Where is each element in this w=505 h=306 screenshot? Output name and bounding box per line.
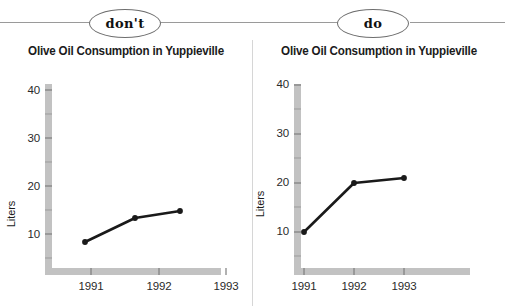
do-data-point-1993: [401, 175, 407, 181]
do-x-axis: [294, 268, 470, 275]
do-data-markers: [301, 175, 407, 235]
do-badge: do: [337, 9, 409, 38]
rule-line-left-b: [160, 22, 253, 23]
do-panel: Olive Oil Consumption in Yuppieville Lit…: [253, 40, 505, 306]
do-data-line: [304, 178, 404, 232]
dont-data-point-1991: [82, 239, 88, 245]
dont-badge: don't: [89, 9, 161, 38]
rule-line-left-a: [0, 22, 91, 23]
guidance-rule-band: don't do: [0, 0, 505, 40]
do-y-axis: [294, 84, 301, 274]
dont-data-line: [85, 211, 180, 242]
dont-plot-area: [0, 40, 252, 306]
dont-data-point-1992: [132, 215, 138, 221]
dont-data-point-1993: [177, 208, 183, 214]
rule-line-right-a: [253, 22, 338, 23]
do-chart-svg: [253, 40, 505, 306]
do-data-point-1992: [351, 180, 357, 186]
dont-chart-svg: [0, 40, 252, 306]
dont-y-axis: [45, 84, 52, 274]
rule-line-right-b: [410, 22, 505, 23]
dont-x-axis: [45, 268, 221, 275]
do-data-point-1991: [301, 229, 307, 235]
dont-badge-label: don't: [105, 16, 144, 31]
do-badge-label: do: [364, 16, 383, 31]
do-plot-area: [253, 40, 505, 306]
dont-panel: Olive Oil Consumption in Yuppieville Lit…: [0, 40, 252, 306]
